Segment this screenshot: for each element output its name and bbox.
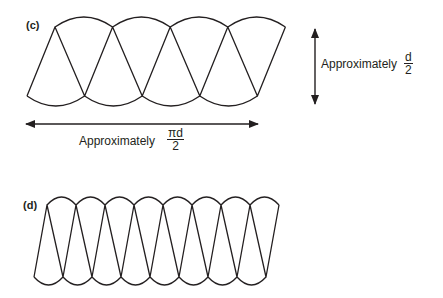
- cone-bottom-arc: [85, 96, 143, 106]
- cone-top-arc: [76, 197, 105, 205]
- width-fraction-denominator: 2: [172, 140, 179, 152]
- cone-bottom-arc: [27, 96, 85, 106]
- cone-bottom-arc: [142, 96, 200, 106]
- height-annotation-text: Approximately: [321, 57, 397, 71]
- cone-side-lines: [27, 27, 285, 96]
- cone-bottom-arc: [179, 277, 208, 285]
- width-fraction: πd 2: [167, 127, 184, 152]
- cone-top-arc: [221, 197, 250, 205]
- cone-top-arc: [134, 197, 163, 205]
- panel-d-cone-strip: [34, 197, 279, 285]
- cone-bottom-arc: [121, 277, 150, 285]
- cone-bottom-arc: [200, 96, 258, 106]
- cone-top-arc: [228, 17, 286, 27]
- cone-side-lines: [34, 205, 279, 277]
- cone-top-arc: [105, 197, 134, 205]
- diagram-canvas: [0, 0, 443, 298]
- panel-c-label: (c): [26, 19, 39, 31]
- cone-bottom-arc: [237, 277, 266, 285]
- cone-bottom-arc: [150, 277, 179, 285]
- cone-top-arc: [163, 197, 192, 205]
- cone-bottom-arc: [63, 277, 92, 285]
- cone-top-arc: [170, 17, 228, 27]
- cone-top-arc: [250, 197, 279, 205]
- cone-top-arc: [47, 197, 76, 205]
- height-fraction: d 2: [404, 51, 413, 76]
- cone-top-arc: [113, 17, 171, 27]
- panel-d-label: (d): [23, 199, 37, 211]
- cone-bottom-arc: [208, 277, 237, 285]
- cone-top-arc: [55, 17, 113, 27]
- cone-bottom-arc: [34, 277, 63, 285]
- width-annotation-text: Approximately: [79, 134, 155, 148]
- cone-top-arc: [192, 197, 221, 205]
- panel-c-cone-strip: [27, 17, 285, 106]
- cone-bottom-arc: [92, 277, 121, 285]
- height-fraction-denominator: 2: [405, 64, 412, 76]
